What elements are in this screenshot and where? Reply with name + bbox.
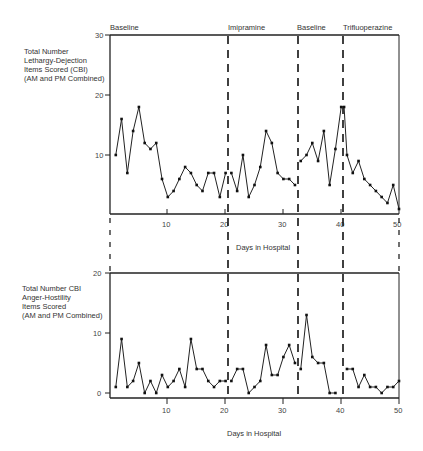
bottom-ytick-0: 0: [97, 389, 101, 398]
bottom-xtick-10: 10: [162, 406, 170, 415]
top-ytick-20: 20: [95, 91, 103, 100]
data-point: [294, 184, 297, 187]
data-point: [288, 178, 291, 181]
data-point: [155, 392, 158, 395]
data-point: [253, 386, 256, 389]
data-point: [363, 374, 366, 377]
svg-text:Total Number CBI: Total Number CBI: [22, 284, 81, 293]
bottom-y-ticks: [105, 273, 110, 393]
data-point: [317, 362, 320, 365]
data-point: [213, 172, 216, 175]
data-point: [323, 362, 326, 365]
data-point: [363, 178, 366, 181]
data-point: [161, 178, 164, 181]
bottom-xtick-50: 50: [394, 406, 402, 415]
data-point: [386, 202, 389, 205]
svg-text:(AM and PM Combined): (AM and PM Combined): [24, 74, 105, 83]
data-point: [149, 380, 152, 383]
svg-text:Total Number: Total Number: [24, 47, 69, 56]
data-point: [276, 374, 279, 377]
bottom-xtick-30: 30: [278, 406, 286, 415]
phase-label-baseline-1: Baseline: [110, 23, 139, 32]
data-point: [369, 184, 372, 187]
data-point: [213, 386, 216, 389]
data-point: [120, 338, 123, 341]
data-point: [184, 386, 187, 389]
data-point: [149, 148, 152, 151]
data-point: [167, 196, 170, 199]
data-point: [195, 184, 198, 187]
data-point: [294, 362, 297, 365]
data-point: [230, 172, 233, 175]
data-point: [375, 190, 378, 193]
data-point: [346, 368, 349, 371]
top-ytick-30: 30: [95, 31, 103, 40]
phase-dividers: [228, 36, 343, 398]
data-point: [305, 154, 308, 157]
data-point: [207, 172, 210, 175]
data-point: [317, 160, 320, 163]
data-point: [230, 380, 233, 383]
top-xtick-20: 20: [220, 220, 228, 229]
bottom-x-axis-label: Days in Hospital: [227, 429, 282, 438]
data-point: [351, 172, 354, 175]
data-point: [236, 190, 239, 193]
data-point: [253, 184, 256, 187]
data-point: [126, 172, 129, 175]
data-point: [132, 380, 135, 383]
series-line: [116, 107, 226, 197]
data-point: [357, 160, 360, 163]
data-point: [155, 142, 158, 145]
data-point: [126, 386, 129, 389]
data-point: [143, 392, 146, 395]
data-point: [282, 178, 285, 181]
data-point: [271, 142, 274, 145]
data-point: [276, 172, 279, 175]
data-point: [172, 190, 175, 193]
data-point: [120, 118, 123, 121]
series-line: [301, 315, 336, 393]
data-point: [242, 154, 245, 157]
data-point: [184, 166, 187, 169]
top-chart-frame: [110, 35, 399, 214]
data-point: [195, 368, 198, 371]
data-point: [398, 380, 401, 383]
data-point: [247, 392, 250, 395]
data-point: [265, 130, 268, 133]
data-point: [299, 160, 302, 163]
top-y-axis-label: Total Number Lethargy-Dejection Items Sc…: [24, 47, 105, 83]
data-point: [386, 386, 389, 389]
data-point: [346, 154, 349, 157]
data-point: [351, 368, 354, 371]
top-x-ticks: [167, 209, 341, 214]
data-point: [259, 380, 262, 383]
data-point: [380, 392, 383, 395]
data-point: [190, 172, 193, 175]
top-xtick-50: 50: [393, 220, 401, 229]
bottom-x-ticks: [167, 398, 399, 404]
data-point: [305, 314, 308, 317]
data-point: [323, 130, 326, 133]
svg-text:Anger-Hostility: Anger-Hostility: [22, 293, 71, 302]
data-point: [334, 148, 337, 151]
data-point: [392, 386, 395, 389]
svg-text:Lethargy-Dejection: Lethargy-Dejection: [24, 56, 87, 65]
top-ytick-10: 10: [95, 151, 103, 160]
data-point: [219, 196, 222, 199]
data-point: [392, 184, 395, 187]
data-point: [161, 374, 164, 377]
top-xtick-10: 10: [162, 220, 170, 229]
data-point: [288, 344, 291, 347]
top-y-ticks: [105, 35, 110, 155]
series-line: [301, 107, 341, 185]
bottom-y-axis-label: Total Number CBI Anger-Hostility Items S…: [22, 284, 103, 320]
phase-label-baseline-2: Baseline: [297, 23, 326, 32]
series-line: [347, 369, 399, 393]
data-point: [178, 368, 181, 371]
data-point: [236, 368, 239, 371]
svg-text:(AM and PM Combined): (AM and PM Combined): [22, 311, 103, 320]
svg-text:Items Scored (CBI): Items Scored (CBI): [24, 65, 88, 74]
data-point: [172, 380, 175, 383]
data-point: [259, 166, 262, 169]
data-point: [224, 172, 227, 175]
